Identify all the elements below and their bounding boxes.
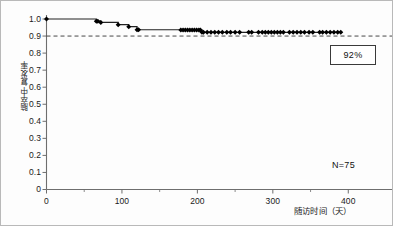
x-tick-label: 300 <box>257 196 289 206</box>
x-tick-label: 100 <box>106 196 138 206</box>
y-tick-label: 0.1 <box>15 167 41 177</box>
sample-size-label: N=75 <box>332 160 355 170</box>
x-tick-label: 200 <box>181 196 213 206</box>
x-tick-label: 0 <box>31 196 63 206</box>
x-axis-label: 随访时间（天） <box>294 204 351 216</box>
y-tick-label: 0 <box>15 184 41 194</box>
survival-percent-box: 92% <box>330 45 376 65</box>
tick-marks <box>43 19 349 194</box>
y-tick-label: 0.9 <box>15 31 41 41</box>
y-tick-label: 1.0 <box>15 14 41 24</box>
y-axis-label: 脑卒中复发率 <box>20 61 32 111</box>
y-tick-label: 0.3 <box>15 133 41 143</box>
y-tick-label: 0.2 <box>15 150 41 160</box>
y-tick-label: 0.8 <box>15 48 41 58</box>
kaplan-meier-plot <box>1 1 393 226</box>
y-tick-label: 0.4 <box>15 116 41 126</box>
survival-percent-text: 92% <box>344 50 363 60</box>
chart-figure: 00.10.20.30.40.50.60.70.80.91.0010020030… <box>0 0 393 226</box>
